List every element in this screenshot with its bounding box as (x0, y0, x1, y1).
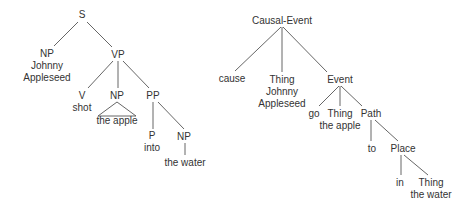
tree-node-in: in (396, 177, 404, 188)
tree-node-go: go (308, 108, 320, 119)
tree-edge (319, 86, 339, 106)
tree-node-np3: NP (177, 131, 191, 142)
tree-node-path: Path (361, 108, 382, 119)
tree-edge (341, 86, 362, 106)
conceptual-structure-tree: Causal-EventcauseThingJohnnyAppleseedEve… (219, 15, 453, 200)
node-label: Path (361, 108, 382, 119)
node-label: the water (164, 157, 206, 168)
node-content: Johnny (266, 86, 298, 97)
node-content: Appleseed (258, 98, 305, 109)
node-label: go (308, 108, 320, 119)
node-content: the water (410, 189, 452, 200)
tree-edge (54, 22, 78, 46)
node-content: the apple (319, 120, 361, 131)
triangle-label: the apple (96, 115, 138, 126)
tree-edge (375, 120, 398, 141)
node-content: shot (73, 102, 92, 113)
tree-node-np2: NP (110, 90, 124, 101)
node-label: NP (177, 131, 191, 142)
node-label: NP (110, 90, 124, 101)
node-content: Johnny (31, 60, 63, 71)
node-label: Causal-Event (252, 15, 312, 26)
node-label: Place (390, 143, 415, 154)
node-label: P (149, 130, 156, 141)
node-label: PP (146, 90, 160, 101)
tree-node-causalevent: Causal-Event (252, 15, 312, 26)
tree-node-p: Pinto (144, 130, 161, 153)
node-label: VP (111, 49, 125, 60)
tree-edge (158, 102, 184, 129)
tree-edge (88, 61, 113, 88)
tree-edge (87, 22, 112, 47)
tree-edge (283, 27, 327, 72)
tree-node-s: S (79, 9, 86, 20)
node-label: to (368, 143, 377, 154)
node-label: V (79, 90, 86, 101)
tree-node-cause: cause (219, 73, 246, 84)
tree-node-thing1: ThingJohnnyAppleseed (258, 74, 305, 109)
tree-diagram-canvas: the appleSNPJohnnyAppleseedVPVshotNPPPPi… (0, 0, 471, 212)
tree-node-event: Event (327, 74, 353, 85)
node-label: S (79, 9, 86, 20)
node-content: Appleseed (23, 72, 70, 83)
node-label: cause (219, 73, 246, 84)
node-label: Thing (327, 108, 352, 119)
tree-node-vp: VP (111, 49, 125, 60)
node-label: NP (40, 48, 54, 59)
node-label: Thing (418, 177, 443, 188)
node-label: Thing (269, 74, 294, 85)
node-label: in (396, 177, 404, 188)
tree-node-np1: NPJohnnyAppleseed (23, 48, 70, 83)
tree-node-thing3: Thingthe water (410, 177, 452, 200)
node-content: into (144, 142, 161, 153)
tree-node-v: Vshot (73, 90, 92, 113)
syntactic-tree: the appleSNPJohnnyAppleseedVPVshotNPPPPi… (23, 9, 206, 168)
tree-edge (404, 155, 428, 175)
tree-node-water1: the water (164, 157, 206, 168)
tree-node-place: Place (390, 143, 415, 154)
tree-edge (235, 27, 281, 71)
tree-node-thing2: Thingthe apple (319, 108, 361, 131)
tree-node-pp: PP (146, 90, 160, 101)
tree-node-to: to (368, 143, 377, 154)
node-label: Event (327, 74, 353, 85)
tree-edge (123, 61, 149, 88)
